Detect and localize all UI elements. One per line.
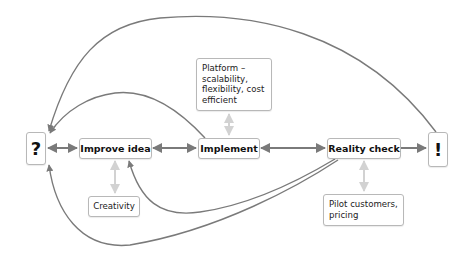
platform-line-2: scalability, [202,74,248,85]
node-improve-idea-label: Improve idea [80,143,150,154]
node-question-label: ? [31,138,41,159]
node-platform: Platform – scalability, flexibility, cos… [196,58,272,111]
node-implement-label: Implement [200,143,258,154]
pilot-line-1: Pilot customers, [329,199,398,210]
edge-implement-to-question [50,93,205,138]
edge-reality-to-improve [129,159,335,213]
node-pilot: Pilot customers, pricing [323,194,404,226]
platform-line-3: flexibility, cost [202,84,264,95]
node-reality-check-label: Reality check [328,143,400,154]
node-reality-check: Reality check [327,138,401,159]
node-improve-idea: Improve idea [79,138,152,159]
node-creativity: Creativity [88,196,140,217]
node-exclamation-label: ! [434,139,442,160]
platform-line-4: efficient [202,95,237,106]
node-implement: Implement [198,138,260,159]
node-question: ? [26,132,46,165]
node-creativity-label: Creativity [93,201,135,212]
pilot-line-2: pricing [329,210,358,221]
node-exclamation: ! [428,132,448,167]
platform-line-1: Platform – [202,63,245,74]
